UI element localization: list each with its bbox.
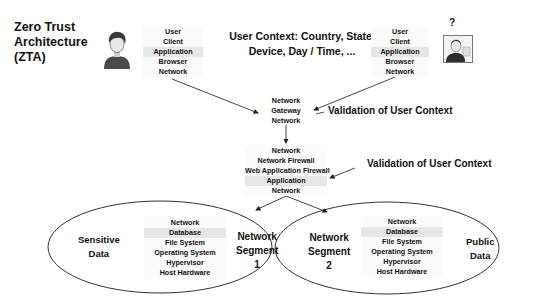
stack-row-application: Application [143, 47, 203, 57]
stack-row-client: Client [371, 37, 429, 47]
segment-label-line: Segment [308, 245, 350, 259]
client-stack-left: User Client Application Browser Network [143, 27, 203, 77]
validation-label-gateway: Validation of User Context [328, 105, 452, 116]
stack-row-host-hardware: Host Hardware [361, 267, 443, 277]
stack-row-file-system: File System [144, 238, 226, 248]
segment-1-stack: Network Database File System Operating S… [144, 218, 226, 278]
stack-row-hypervisor: Hypervisor [144, 258, 226, 268]
stack-row-waf: Web Application Firewall [245, 166, 327, 176]
segment-label-line: Network [308, 231, 350, 245]
network-segment-1-label: Network Segment 1 [236, 230, 278, 272]
stack-row-gateway: Gateway [262, 106, 310, 116]
gateway-stack: Network Gateway Network [262, 96, 310, 126]
stack-row-network: Network [245, 146, 327, 156]
segment-label-line: 2 [308, 259, 350, 273]
stack-row-network: Network [262, 96, 310, 106]
title-line: (ZTA) [14, 50, 88, 65]
stack-row-application: Application [371, 47, 429, 57]
data-label-line: Public [466, 235, 495, 249]
unknown-user-marker: ? [449, 17, 455, 28]
stack-row-network: Network [144, 218, 226, 228]
stack-row-network: Network [262, 116, 310, 126]
title-line: Architecture [14, 35, 88, 50]
stack-row-host-hardware: Host Hardware [144, 268, 226, 278]
data-label-line: Sensitive [78, 233, 120, 247]
stack-row-operating-system: Operating System [144, 248, 226, 258]
data-label-line: Data [466, 249, 495, 263]
segment-label-line: 1 [236, 258, 278, 272]
segment-label-line: Segment [236, 244, 278, 258]
stack-row-network: Network [361, 217, 443, 227]
stack-row-browser: Browser [371, 57, 429, 67]
stack-row-database: Database [144, 228, 226, 238]
stack-row-network-firewall: Network Firewall [245, 156, 327, 166]
user-avatar-icon [101, 29, 133, 69]
stack-row-user: User [371, 27, 429, 37]
stack-row-network: Network [143, 67, 203, 77]
stack-row-client: Client [143, 37, 203, 47]
stack-row-database: Database [361, 227, 443, 237]
title-line: Zero Trust [14, 20, 88, 35]
stack-row-network: Network [371, 67, 429, 77]
id-card-person-icon [443, 35, 473, 63]
validation-label-firewall: Validation of User Context [367, 158, 491, 169]
stack-row-network: Network [245, 186, 327, 196]
stack-row-browser: Browser [143, 57, 203, 67]
sensitive-data-label: Sensitive Data [78, 233, 120, 261]
segment-2-stack: Network Database File System Operating S… [361, 217, 443, 277]
user-context-line: Device, Day / Time, ... [222, 44, 382, 59]
stack-row-file-system: File System [361, 237, 443, 247]
user-context-line: User Context: Country, State, [222, 29, 382, 44]
stack-row-operating-system: Operating System [361, 247, 443, 257]
stack-row-application: Application [245, 176, 327, 186]
public-data-label: Public Data [466, 235, 495, 263]
data-label-line: Data [78, 247, 120, 261]
firewall-stack: Network Network Firewall Web Application… [245, 146, 327, 196]
stack-row-hypervisor: Hypervisor [361, 257, 443, 267]
client-stack-right: User Client Application Browser Network [371, 27, 429, 77]
diagram-title: Zero Trust Architecture (ZTA) [14, 20, 88, 65]
user-context-label: User Context: Country, State, Device, Da… [222, 29, 382, 59]
segment-label-line: Network [236, 230, 278, 244]
stack-row-user: User [143, 27, 203, 37]
network-segment-2-label: Network Segment 2 [308, 231, 350, 273]
